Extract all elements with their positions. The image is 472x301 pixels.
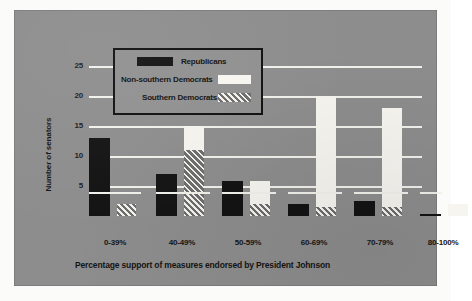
legend-label-southern-democrats: Southern Democrats <box>142 93 217 102</box>
ytick-label-20: 20 <box>61 91 83 100</box>
legend-entry-nonsouthern-democrats: Non-southern Democrats <box>115 74 261 87</box>
bar-southern-democrats-0-39 <box>117 204 136 216</box>
ytick-label-15: 15 <box>61 121 83 130</box>
bar-republicans-0-39 <box>89 138 110 216</box>
x-axis-title: Percentage support of measures endorsed … <box>75 260 330 270</box>
ytick-label-10: 10 <box>61 151 83 160</box>
baseline-tick-80-100 <box>420 192 442 194</box>
xtick-label-70-79: 70-79% <box>348 238 412 247</box>
bar-nonsouthern-democrats-60-69 <box>316 96 336 216</box>
legend-entry-republicans: Republicans <box>115 56 261 69</box>
baseline-tick-0-39 <box>89 192 141 194</box>
legend-swatch-republicans-icon <box>137 57 173 66</box>
baseline-tick-60-69 <box>288 192 342 194</box>
legend-label-nonsouthern-democrats: Non-southern Democrats <box>121 75 213 84</box>
xtick-label-60-69: 60-69% <box>282 238 346 247</box>
legend-entry-southern-democrats: Southern Democrats <box>115 92 261 105</box>
xtick-label-80-100: 80-100% <box>410 238 472 247</box>
xtick-label-0-39: 0-39% <box>83 238 147 247</box>
bar-nonsouthern-democrats-70-79 <box>382 108 402 216</box>
bar-southern-democrats-70-79 <box>382 207 402 216</box>
ytick-label-25: 25 <box>61 61 83 70</box>
bar-nonsouthern-democrats-80-100 <box>448 204 468 216</box>
xtick-label-50-59: 50-59% <box>216 238 280 247</box>
bar-southern-democrats-60-69 <box>316 207 336 216</box>
bar-republicans-50-59 <box>222 181 243 216</box>
y-axis-title: Number of senators <box>44 107 53 203</box>
bar-republicans-80-100 <box>420 214 441 216</box>
legend-swatch-nonsouthern-democrats-icon <box>218 75 251 84</box>
bar-republicans-70-79 <box>354 201 375 216</box>
chart-panel: 25 20 15 10 5 Number of senators <box>14 10 437 286</box>
bar-southern-democrats-50-59 <box>250 204 270 216</box>
xtick-label-40-49: 40-49% <box>150 238 214 247</box>
legend-swatch-southern-democrats-icon <box>218 93 251 102</box>
ytick-label-5: 5 <box>61 181 83 190</box>
bar-republicans-40-49 <box>156 174 177 216</box>
baseline-tick-50-59 <box>222 192 276 194</box>
baseline-tick-70-79 <box>354 192 408 194</box>
baseline-tick-40-49 <box>156 192 210 194</box>
legend-label-republicans: Republicans <box>181 57 226 66</box>
bar-southern-democrats-40-49 <box>184 150 204 216</box>
bar-republicans-60-69 <box>288 204 309 216</box>
chart-legend: Republicans Non-southern Democrats South… <box>113 48 263 115</box>
